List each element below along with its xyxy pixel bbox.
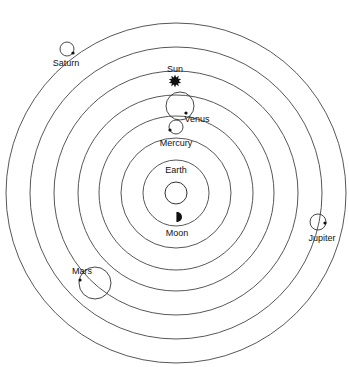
moon-label: Moon [166,228,189,238]
earth-icon [165,182,187,204]
mercury-label: Mercury [160,138,193,148]
earth-label: Earth [165,165,187,175]
saturn-planet-dot-icon [71,51,74,54]
jupiter-planet-dot-icon [323,221,326,224]
mars-planet-dot-icon [78,278,81,281]
geocentric-diagram [0,0,349,367]
mercury-epicycle-icon [169,120,183,134]
mars-label: Mars [72,266,92,276]
jupiter-label: Jupiter [308,233,335,243]
venus-label: Venus [184,114,209,124]
mercury-planet-dot-icon [168,128,171,131]
moon-icon [177,212,182,222]
sun-icon [169,75,181,88]
celestial-bodies [60,42,327,299]
saturn-label: Saturn [53,58,80,68]
sun-label: Sun [167,64,183,74]
